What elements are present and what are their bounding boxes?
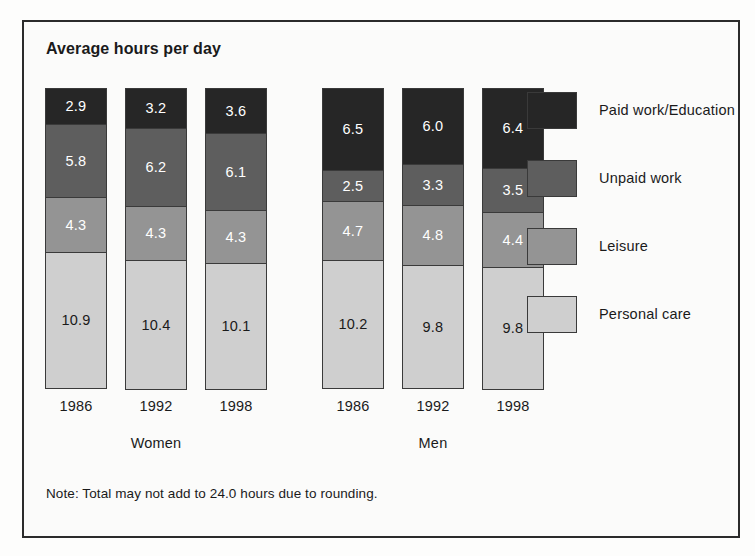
segment-value-label: 10.1 [221, 319, 250, 334]
bar-segment: 3.3 [402, 164, 464, 206]
bar-segment: 9.8 [402, 265, 464, 388]
legend-label: Leisure [599, 238, 648, 254]
segment-value-label: 10.4 [141, 318, 170, 333]
segment-value-label: 6.4 [503, 121, 524, 136]
x-axis-year-label: 1986 [322, 398, 384, 414]
bar-segment: 6.0 [402, 88, 464, 164]
group-label-women: Women [45, 435, 267, 451]
segment-value-label: 3.3 [423, 178, 444, 193]
x-axis-year-label: 1986 [45, 398, 107, 414]
segment-value-label: 4.3 [66, 218, 87, 233]
x-axis-year-label: 1992 [125, 398, 187, 414]
legend-swatch [527, 228, 577, 265]
segment-value-label: 9.8 [423, 320, 444, 335]
segment-value-label: 3.6 [226, 104, 247, 119]
stacked-bar: 3.26.24.310.4 [125, 88, 187, 390]
segment-value-label: 6.1 [226, 165, 247, 180]
bar-segment: 10.4 [125, 260, 187, 390]
segment-value-label: 3.2 [146, 101, 167, 116]
bar-segment: 4.3 [125, 206, 187, 260]
segment-value-label: 10.9 [61, 313, 90, 328]
bar-segment: 4.8 [402, 205, 464, 265]
group-label-men: Men [322, 435, 544, 451]
bar-segment: 3.2 [125, 88, 187, 128]
stacked-bar: 6.52.54.710.2 [322, 88, 384, 390]
segment-value-label: 5.8 [66, 154, 87, 169]
bar-segment: 6.2 [125, 128, 187, 206]
bar-segment: 5.8 [45, 124, 107, 197]
stacked-bar: 6.03.34.89.8 [402, 88, 464, 390]
legend-swatch [527, 160, 577, 197]
segment-value-label: 2.9 [66, 99, 87, 114]
segment-value-label: 6.2 [146, 160, 167, 175]
segment-value-label: 4.8 [423, 228, 444, 243]
stacked-bar: 2.95.84.310.9 [45, 88, 107, 390]
bar-segment: 10.1 [205, 263, 267, 390]
segment-value-label: 6.5 [343, 122, 364, 137]
chart-figure: Average hours per day 2.95.84.310.93.26.… [0, 0, 755, 556]
bar-segment: 2.9 [45, 88, 107, 124]
segment-value-label: 6.0 [423, 119, 444, 134]
segment-value-label: 4.3 [146, 226, 167, 241]
segment-value-label: 10.2 [338, 317, 367, 332]
segment-value-label: 4.7 [343, 224, 364, 239]
segment-value-label: 2.5 [343, 179, 364, 194]
chart-title: Average hours per day [46, 40, 221, 58]
bar-segment: 4.7 [322, 201, 384, 260]
x-axis-year-label: 1998 [205, 398, 267, 414]
legend-label: Unpaid work [599, 170, 682, 186]
legend-item: Leisure [527, 226, 648, 266]
legend-swatch [527, 296, 577, 333]
legend-swatch [527, 92, 577, 129]
legend-label: Personal care [599, 306, 691, 322]
legend-item: Personal care [527, 294, 691, 334]
bar-segment: 10.9 [45, 252, 107, 389]
bar-segment: 6.1 [205, 133, 267, 209]
segment-value-label: 4.3 [226, 230, 247, 245]
bar-segment: 10.2 [322, 260, 384, 388]
bar-segment: 4.3 [45, 197, 107, 251]
bar-segment: 3.6 [205, 88, 267, 133]
stacked-bar: 3.66.14.310.1 [205, 88, 267, 390]
segment-value-label: 4.4 [503, 233, 524, 248]
chart-note: Note: Total may not add to 24.0 hours du… [46, 486, 378, 501]
bar-segment: 2.5 [322, 170, 384, 201]
bar-segment: 4.3 [205, 210, 267, 264]
segment-value-label: 3.5 [503, 183, 524, 198]
bar-segment: 6.5 [322, 88, 384, 170]
segment-value-label: 9.8 [503, 321, 524, 336]
x-axis-year-label: 1998 [482, 398, 544, 414]
legend-item: Paid work/Education [527, 90, 735, 130]
plot-area: 2.95.84.310.93.26.24.310.43.66.14.310.16… [45, 88, 500, 390]
legend-label: Paid work/Education [599, 102, 735, 118]
x-axis-year-label: 1992 [402, 398, 464, 414]
legend-item: Unpaid work [527, 158, 682, 198]
